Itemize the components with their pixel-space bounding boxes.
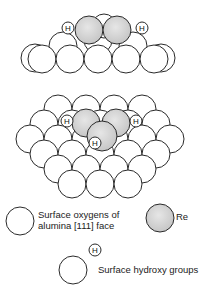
alumina-rhenium-diagram: H H xyxy=(0,0,202,293)
legend-hydroxy-oxygen-symbol xyxy=(59,256,87,284)
re-atom xyxy=(75,16,103,44)
re-atom xyxy=(103,16,131,44)
legend-oxygen-line2: alumina [111] face xyxy=(38,220,119,231)
svg-text:H: H xyxy=(133,117,139,126)
svg-text:H: H xyxy=(92,246,98,255)
hydrogen-atom: H xyxy=(136,22,148,34)
legend-oxygen-label: Surface oxygens of alumina [111] face xyxy=(38,209,119,231)
hydrogen-atom: H xyxy=(62,22,74,34)
hydrogen-atom: H xyxy=(130,115,142,127)
legend-oxygen-line1: Surface oxygens of xyxy=(38,209,119,220)
svg-text:H: H xyxy=(139,24,145,33)
legend-oxygen-symbol xyxy=(6,207,34,235)
legend-re-symbol xyxy=(146,204,174,232)
legend-re-label: Re xyxy=(176,211,188,222)
legend-hydroxy-label: Surface hydroxy groups xyxy=(98,264,198,275)
side-view: H H xyxy=(21,14,175,73)
top-view: H H H xyxy=(16,95,184,198)
hydrogen-atom: H xyxy=(61,115,73,127)
svg-text:H: H xyxy=(65,24,71,33)
hydrogen-atom: H xyxy=(89,137,101,149)
legend-hydroxy-hydrogen-symbol: H xyxy=(89,244,101,256)
svg-text:H: H xyxy=(64,117,70,126)
svg-text:H: H xyxy=(92,139,98,148)
